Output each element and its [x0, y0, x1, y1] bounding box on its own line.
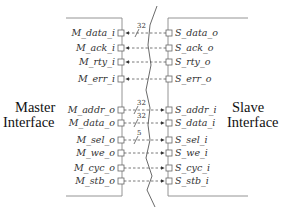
- wishbone-interface-diagram: 32 32 32 5 M_data_i M_ack_i M_rty_i M_er…: [0, 0, 286, 213]
- s-sel-i-label: S_sel_i: [175, 134, 208, 146]
- s-cyc-i-label: S_cyc_i: [175, 162, 210, 174]
- master-label-line2: Interface: [3, 114, 55, 130]
- m-we-o-label: M_we_o: [75, 147, 115, 159]
- m-stb-o-label: M_stb_o: [74, 175, 115, 187]
- m-data-i-label: M_data_i: [71, 27, 116, 39]
- bus-width-data-o: 32: [137, 112, 146, 120]
- m-ack-i-label: M_ack_i: [75, 42, 115, 54]
- master-to-slave-signals: [124, 110, 164, 181]
- s-we-i-label: S_we_i: [175, 147, 208, 159]
- m-addr-o-label: M_addr_o: [67, 104, 116, 116]
- s-data-i-label: S_data_i: [175, 117, 215, 129]
- m-cyc-o-label: M_cyc_o: [73, 162, 115, 174]
- m-err-i-label: M_err_i: [77, 73, 115, 85]
- bus-width-addr-o: 32: [137, 99, 146, 107]
- master-label-line1: Master: [15, 99, 55, 115]
- s-rty-o-label: S_rty_o: [175, 56, 211, 68]
- slave-port-squares: [166, 30, 172, 184]
- s-ack-o-label: S_ack_o: [175, 42, 214, 54]
- slave-label-line1: Slave: [232, 99, 264, 115]
- m-rty-i-label: M_rty_i: [78, 56, 115, 68]
- s-data-o-label: S_data_o: [175, 27, 218, 39]
- s-err-o-label: S_err_o: [175, 73, 212, 85]
- bus-width-sel-o: 5: [137, 129, 141, 137]
- bus-width-slashes: [134, 29, 139, 144]
- slave-to-master-signals: [126, 33, 166, 79]
- wavy-divider: [146, 6, 157, 207]
- master-port-squares: [118, 30, 124, 184]
- slave-label-line2: Interface: [227, 114, 279, 130]
- s-addr-i-label: S_addr_i: [175, 104, 216, 116]
- s-stb-i-label: S_stb_i: [175, 175, 209, 187]
- bus-width-data-i: 32: [137, 22, 146, 30]
- m-sel-o-label: M_sel_o: [76, 134, 116, 146]
- m-data-o-label: M_data_o: [68, 117, 115, 129]
